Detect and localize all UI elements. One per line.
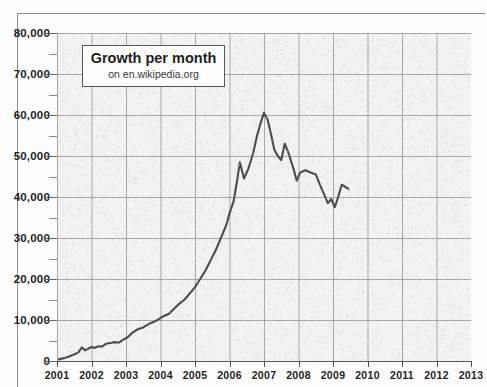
y-axis-label: 50,000 <box>0 150 50 162</box>
y-axis-tick-minor <box>49 54 57 55</box>
y-axis-tick-minor <box>49 259 57 260</box>
x-axis-tick <box>92 361 93 367</box>
y-axis-label: 60,000 <box>0 109 50 121</box>
y-axis-label: 80,000 <box>0 27 50 39</box>
x-axis-tick <box>437 361 438 367</box>
x-axis-tick <box>57 361 58 367</box>
x-axis-tick <box>230 361 231 367</box>
y-axis-tick-major <box>44 33 57 34</box>
y-axis-tick-major <box>44 115 57 116</box>
y-axis-tick-minor <box>49 136 57 137</box>
x-axis-tick <box>299 361 300 367</box>
y-axis-label: 40,000 <box>0 191 50 203</box>
x-axis-tick <box>368 361 369 367</box>
x-axis-tick <box>161 361 162 367</box>
frame-top-border <box>17 13 485 14</box>
y-axis-tick-minor <box>49 177 57 178</box>
x-axis-label: 2013 <box>449 369 487 381</box>
x-axis-tick <box>126 361 127 367</box>
y-axis-tick-major <box>44 238 57 239</box>
y-axis-tick-minor <box>49 218 57 219</box>
x-axis-tick <box>471 361 472 367</box>
y-axis-tick-minor <box>49 300 57 301</box>
x-axis-tick <box>402 361 403 367</box>
y-axis-label: 30,000 <box>0 232 50 244</box>
y-axis-tick-major <box>44 320 57 321</box>
chart-subtitle: on en.wikipedia.org <box>89 68 218 81</box>
x-axis-tick <box>195 361 196 367</box>
y-axis-tick-major <box>44 279 57 280</box>
chart-figure: 010,00020,00030,00040,00050,00060,00070,… <box>0 0 487 387</box>
x-axis-tick <box>333 361 334 367</box>
y-axis-tick-minor <box>49 341 57 342</box>
chart-title: Growth per month <box>89 50 218 67</box>
y-axis-tick-major <box>44 74 57 75</box>
chart-title-box: Growth per month on en.wikipedia.org <box>82 45 225 87</box>
y-axis-tick-major <box>44 156 57 157</box>
y-axis-label: 20,000 <box>0 273 50 285</box>
y-axis-label: 10,000 <box>0 314 50 326</box>
y-axis-tick-major <box>44 197 57 198</box>
x-axis-tick <box>264 361 265 367</box>
y-axis-label: 0 <box>0 355 50 367</box>
y-axis-label: 70,000 <box>0 68 50 80</box>
y-axis-tick-minor <box>49 95 57 96</box>
y-axis-tick-major <box>44 361 57 362</box>
